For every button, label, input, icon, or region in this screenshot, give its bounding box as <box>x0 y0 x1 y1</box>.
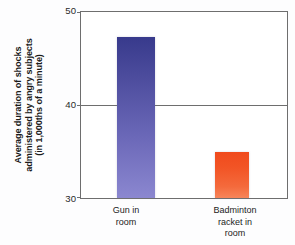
plot-area <box>80 11 288 199</box>
y-axis-title-line-2: administered by angry subjects <box>24 38 35 171</box>
x-axis-label-badminton-racket-in-room-line-2: racket in <box>190 217 280 229</box>
y-axis-title-line-1: Average duration of shocks <box>13 47 24 164</box>
tick-mark-50 <box>77 12 81 13</box>
y-tick-label-30: 30 <box>52 193 76 204</box>
x-axis-label-gun-in-room-line-2: room <box>86 217 166 229</box>
y-tick-label-50: 50 <box>52 5 76 16</box>
bar-gun-in-room <box>117 37 155 198</box>
gridline-40 <box>81 105 287 106</box>
x-axis-label-gun-in-room-line-1: Gun in <box>86 205 166 217</box>
bar-chart: Average duration of shocks administered … <box>0 0 295 245</box>
x-axis-label-badminton-racket-in-room: Badminton racket in room <box>190 205 280 240</box>
x-axis-label-badminton-racket-in-room-line-3: room <box>190 228 280 240</box>
y-axis-title-line-3: (in 1,000ths of a minute) <box>34 54 45 156</box>
y-axis-tick-labels: 50 40 30 <box>52 0 76 210</box>
tick-mark-30 <box>77 197 81 198</box>
tick-mark-40 <box>77 105 81 106</box>
x-axis-label-gun-in-room: Gun in room <box>86 205 166 228</box>
y-axis-title: Average duration of shocks administered … <box>0 0 58 210</box>
x-axis-label-badminton-racket-in-room-line-1: Badminton <box>190 205 280 217</box>
bar-badminton-racket-in-room-fill <box>215 152 249 198</box>
bar-badminton-racket-in-room <box>215 152 249 198</box>
y-tick-label-40: 40 <box>52 99 76 110</box>
bar-gun-in-room-fill <box>117 37 155 198</box>
